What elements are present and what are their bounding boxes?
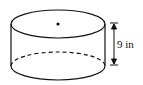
- cylinder-diagram: 9 in: [0, 0, 143, 85]
- center-dot: [56, 22, 59, 25]
- bottom-front-edge: [11, 66, 105, 80]
- height-label: 9 in: [117, 38, 134, 50]
- bottom-hidden-edge: [11, 52, 105, 66]
- cylinder: [11, 10, 105, 80]
